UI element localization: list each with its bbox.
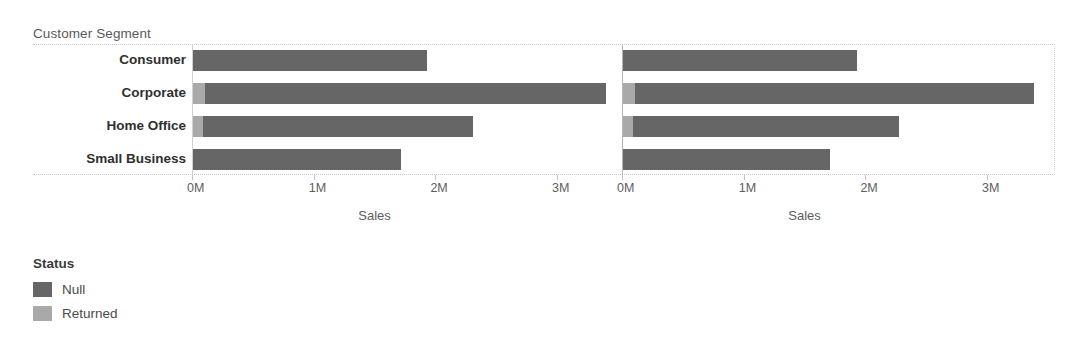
- x-axis-tick-label-3M: 3M: [982, 181, 999, 195]
- bar-segment-null[interactable]: [623, 149, 830, 170]
- chart-pane-2: [622, 45, 1055, 176]
- row-label-corporate[interactable]: Corporate: [121, 78, 186, 108]
- legend-item-null[interactable]: Null: [33, 277, 118, 301]
- legend-label-null: Null: [62, 282, 85, 297]
- row-label-consumer[interactable]: Consumer: [119, 45, 186, 75]
- legend-status: Status Null Returned: [33, 256, 118, 325]
- x-axis-tick-3M: [557, 175, 558, 180]
- bar-home-office-pane-1[interactable]: [193, 116, 473, 137]
- x-axis-tick-label-3M: 3M: [552, 181, 569, 195]
- bar-segment-null[interactable]: [633, 116, 900, 137]
- x-axis-tick-3M: [987, 175, 988, 180]
- bar-segment-null[interactable]: [623, 50, 857, 71]
- bar-home-office-pane-2[interactable]: [623, 116, 899, 137]
- legend-label-returned: Returned: [62, 306, 118, 321]
- bar-segment-null[interactable]: [635, 83, 1034, 104]
- bar-small-business-pane-2[interactable]: [623, 149, 830, 170]
- x-axis-tick-label-2M: 2M: [860, 181, 877, 195]
- bar-corporate-pane-2[interactable]: [623, 83, 1034, 104]
- x-axis-tick-label-2M: 2M: [430, 181, 447, 195]
- bar-corporate-pane-1[interactable]: [193, 83, 606, 104]
- bar-segment-null[interactable]: [193, 50, 427, 71]
- bar-segment-returned[interactable]: [623, 83, 635, 104]
- row-header-customer-segment: Consumer Corporate Home Office Small Bus…: [33, 45, 192, 176]
- row-label-home-office[interactable]: Home Office: [106, 111, 186, 141]
- row-label-small-business[interactable]: Small Business: [86, 144, 186, 174]
- x-axis-pane-2: Sales 0M1M2M3M: [622, 175, 1055, 231]
- legend-item-returned[interactable]: Returned: [33, 301, 118, 325]
- x-axis-tick-0M: [622, 175, 623, 180]
- x-axis-pane-1: Sales 0M1M2M3M: [192, 175, 622, 231]
- bar-consumer-pane-2[interactable]: [623, 50, 857, 71]
- bar-segment-returned[interactable]: [623, 116, 633, 137]
- x-axis-tick-label-1M: 1M: [739, 181, 756, 195]
- bar-segment-null[interactable]: [205, 83, 605, 104]
- legend-title: Status: [33, 256, 118, 271]
- bar-segment-null[interactable]: [193, 149, 401, 170]
- x-axis-tick-1M: [744, 175, 745, 180]
- bar-segment-returned[interactable]: [193, 116, 203, 137]
- field-caption-customer-segment: Customer Segment: [33, 26, 151, 41]
- bar-segment-returned[interactable]: [193, 83, 205, 104]
- x-axis-tick-2M: [865, 175, 866, 180]
- x-axis-tick-0M: [192, 175, 193, 180]
- x-axis-tick-label-0M: 0M: [617, 181, 634, 195]
- chart-pane-1: [192, 45, 622, 176]
- bar-small-business-pane-1[interactable]: [193, 149, 401, 170]
- x-axis-tick-2M: [435, 175, 436, 180]
- bar-consumer-pane-1[interactable]: [193, 50, 427, 71]
- x-axis-title-pane-1: Sales: [192, 208, 557, 223]
- chart-canvas: Consumer Corporate Home Office Small Bus…: [33, 44, 1055, 175]
- x-axis-tick-1M: [314, 175, 315, 180]
- x-axis-tick-label-0M: 0M: [187, 181, 204, 195]
- legend-swatch-null-icon: [33, 282, 52, 297]
- legend-swatch-returned-icon: [33, 306, 52, 321]
- x-axis-title-pane-2: Sales: [622, 208, 987, 223]
- bar-segment-null[interactable]: [203, 116, 473, 137]
- x-axis-tick-label-1M: 1M: [309, 181, 326, 195]
